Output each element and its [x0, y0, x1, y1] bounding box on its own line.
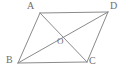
side-AD-line	[40, 12, 108, 13]
vertex-label-A: A	[27, 1, 34, 11]
side-AB-line	[18, 13, 40, 63]
vertex-label-D: D	[110, 1, 117, 11]
side-BC-line	[18, 62, 87, 63]
vertex-label-B: B	[6, 55, 13, 65]
geometry-figure: A D B C O	[0, 0, 127, 74]
vertex-label-C: C	[89, 56, 96, 66]
vertex-label-O: O	[57, 37, 64, 46]
